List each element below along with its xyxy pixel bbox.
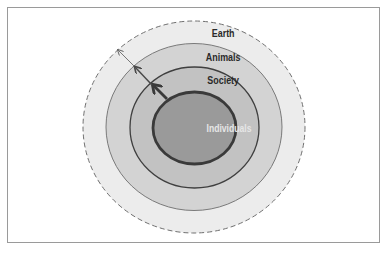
individuals-label: Individuals bbox=[207, 122, 252, 134]
earth-label: Earth bbox=[212, 27, 235, 39]
society-label: Society bbox=[207, 74, 239, 86]
concentric-circles-diagram: Earth Animals Society Individuals bbox=[0, 0, 389, 254]
animals-label: Animals bbox=[206, 51, 241, 63]
